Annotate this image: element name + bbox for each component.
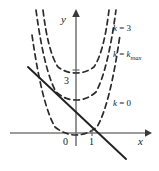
x-tick-label-1: 1 xyxy=(89,137,94,147)
plot-canvas xyxy=(0,0,159,171)
curve-label-k-3: k = 3 xyxy=(113,24,131,33)
curve-label-k-0-value: 0 xyxy=(127,98,132,108)
parabola-family-figure: y x 3 0 1 k = 3 k = kmax k = 0 xyxy=(0,0,159,171)
y-axis-arrowhead xyxy=(72,9,80,17)
curve-label-k-kmax: k = kmax xyxy=(113,50,141,61)
x-axis-arrowhead xyxy=(145,129,152,137)
curve-label-k-kmax-sub: max xyxy=(131,54,142,61)
y-axis-label: y xyxy=(61,14,66,25)
solid-line xyxy=(28,67,126,159)
y-tick-label-3: 3 xyxy=(64,76,69,86)
curve-label-k-3-eq: = xyxy=(117,23,127,33)
curve-label-k-0: k = 0 xyxy=(113,99,131,108)
curve-label-k-3-value: 3 xyxy=(127,23,132,33)
x-axis-label: x xyxy=(138,136,143,147)
x-tick-label-0: 0 xyxy=(63,137,68,147)
curve-label-k-kmax-eq: = xyxy=(117,49,127,59)
curve-label-k-0-eq: = xyxy=(117,98,127,108)
